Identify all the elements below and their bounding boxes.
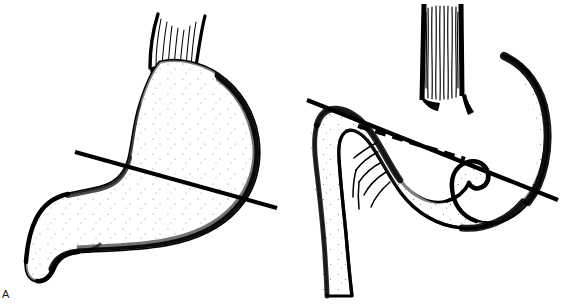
panel-label-a: A [2,289,10,300]
panel-b: B [290,0,580,305]
figure-root: A [0,0,580,305]
panel-b-illustration [290,0,580,305]
panel-a-illustration [0,0,290,305]
panel-a: A [0,0,290,305]
